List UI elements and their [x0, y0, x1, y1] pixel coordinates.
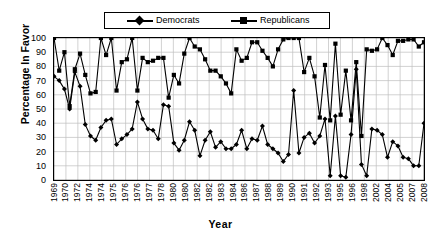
x-axis-tick-label: 1976	[133, 183, 142, 202]
data-point-diamond	[343, 175, 348, 180]
data-point-diamond	[385, 155, 390, 160]
y-axis-tick-label: 90	[36, 48, 46, 57]
chart-canvas	[53, 37, 425, 181]
x-axis-tick-label: 1970	[61, 183, 70, 202]
x-axis-tick-label: 1982	[193, 183, 202, 202]
x-axis-tick-label: 1969	[50, 183, 59, 202]
data-point-diamond	[401, 155, 406, 160]
data-point-square	[94, 90, 98, 94]
data-point-square	[302, 70, 306, 74]
legend-entry-democrats: Democrats	[127, 13, 200, 28]
data-point-square	[135, 88, 139, 92]
data-point-square	[318, 115, 322, 119]
data-point-diamond	[203, 138, 208, 143]
data-point-diamond	[182, 138, 187, 143]
x-axis-tick-label: 1982	[205, 183, 214, 202]
data-point-square	[57, 69, 61, 73]
data-point-diamond	[197, 153, 202, 158]
x-axis-tick-label: 2004	[384, 183, 393, 202]
legend-label-republicans: Republicans	[260, 16, 310, 25]
data-point-square	[62, 50, 66, 54]
data-point-square	[146, 60, 150, 64]
data-point-square	[198, 47, 202, 51]
data-point-square	[125, 57, 129, 61]
data-point-square	[104, 53, 108, 57]
y-axis-tick-label: 10	[36, 161, 46, 170]
x-axis-tick-label: 1972	[73, 183, 82, 202]
data-point-diamond	[416, 163, 421, 168]
data-point-square	[203, 57, 207, 61]
y-axis-tick-label: 100	[31, 34, 46, 43]
data-point-square	[255, 40, 259, 44]
x-axis-tick-label: 1976	[121, 183, 130, 202]
data-point-square	[323, 63, 327, 67]
data-point-diamond	[78, 84, 83, 89]
data-point-square	[240, 59, 244, 63]
y-axis-tick-labels: 1009080706050403020100	[0, 37, 50, 181]
data-point-diamond	[192, 128, 197, 133]
x-axis-tick-label: 1987	[252, 183, 261, 202]
data-point-square	[375, 47, 379, 51]
data-point-square	[370, 49, 374, 53]
data-point-square	[339, 113, 343, 117]
legend-diamond-marker-icon	[127, 15, 153, 26]
data-point-diamond	[239, 128, 244, 133]
data-point-square	[271, 64, 275, 68]
chart-legend: Democrats Republicans	[104, 12, 330, 29]
x-axis-tick-label: 1996	[348, 183, 357, 202]
data-point-square	[344, 69, 348, 73]
data-point-square	[333, 42, 337, 46]
data-point-square	[396, 39, 400, 43]
data-point-square	[219, 74, 223, 78]
x-axis-tick-label: 1986	[240, 183, 249, 202]
legend-square-marker-icon	[231, 15, 257, 26]
data-point-square	[401, 39, 405, 43]
x-axis-title: Year	[0, 218, 441, 230]
legend-label-democrats: Democrats	[156, 16, 200, 25]
chart-page: Democrats Republicans Percentage In Favo…	[0, 0, 441, 239]
data-point-square	[391, 53, 395, 57]
data-point-diamond	[322, 116, 327, 121]
x-axis-tick-label: 1978	[157, 183, 166, 202]
x-axis-tick-label: 1995	[336, 183, 345, 202]
gridlines	[53, 37, 425, 181]
data-point-square	[245, 56, 249, 60]
data-point-diamond	[255, 138, 260, 143]
data-point-diamond	[260, 124, 265, 129]
x-axis-tick-label: 1977	[145, 183, 154, 202]
data-point-square	[312, 74, 316, 78]
data-point-square	[161, 56, 165, 60]
x-axis-tick-label: 1993	[324, 183, 333, 202]
y-axis-tick-label: 40	[36, 119, 46, 128]
x-axis-tick-label: 1975	[109, 183, 118, 202]
y-axis-tick-label: 20	[36, 147, 46, 156]
data-point-diamond	[208, 129, 213, 134]
x-axis-tick-label: 2008	[420, 183, 429, 202]
y-axis-tick-label: 70	[36, 76, 46, 85]
x-axis-tick-label: 1980	[169, 183, 178, 202]
y-axis-tick-label: 50	[36, 105, 46, 114]
data-point-diamond	[135, 99, 140, 104]
data-point-square	[172, 73, 176, 77]
data-point-square	[260, 49, 264, 53]
data-point-square	[193, 44, 197, 48]
y-axis-tick-label: 60	[36, 90, 46, 99]
plot-area	[53, 37, 425, 181]
x-axis-tick-label: 1984	[229, 183, 238, 202]
data-point-square	[167, 96, 171, 100]
data-point-square	[88, 91, 92, 95]
data-point-square	[156, 56, 160, 60]
x-axis-tick-label: 1990	[288, 183, 297, 202]
data-point-square	[229, 91, 233, 95]
data-point-square	[307, 56, 311, 60]
data-point-diamond	[166, 104, 171, 109]
data-point-diamond	[364, 173, 369, 178]
x-axis-tick-labels: 1969197019721974197419751976197619771978…	[53, 183, 425, 215]
data-point-square	[328, 118, 332, 122]
data-point-diamond	[140, 116, 145, 121]
x-axis-tick-label: 1998	[360, 183, 369, 202]
legend-entry-republicans: Republicans	[231, 13, 310, 28]
data-point-square	[276, 47, 280, 51]
data-point-diamond	[369, 126, 374, 131]
data-point-diamond	[338, 173, 343, 178]
